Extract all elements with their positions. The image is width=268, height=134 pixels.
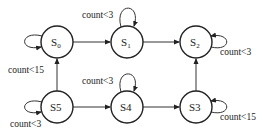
loop-s3 (211, 100, 227, 112)
svg-text:S4: S4 (120, 101, 132, 113)
label-loop-s1: count<3 (82, 10, 113, 20)
state-s5: S5 (41, 91, 73, 123)
state-s1: S1 (111, 26, 143, 58)
label-loop-s3: count<15 (220, 112, 256, 122)
label-loop-s2: count<3 (220, 47, 251, 57)
loop-s5 (25, 101, 42, 113)
loop-s0 (25, 35, 42, 48)
state-s2: S2 (180, 26, 212, 58)
label-loop-s4: count<3 (82, 76, 113, 86)
state-s3: S3 (180, 91, 212, 123)
state-s0: S0 (41, 26, 73, 58)
svg-text:S5: S5 (50, 101, 62, 113)
label-loop-s0: count<15 (8, 65, 44, 75)
loop-s2 (211, 35, 227, 47)
state-s4: S4 (111, 91, 143, 123)
label-loop-s5: count<3 (10, 119, 41, 129)
loop-s1 (120, 8, 136, 27)
svg-text:S3: S3 (189, 101, 201, 113)
state-diagram: S0 S1 S2 S5 S4 S3 count<15 count<3 count… (0, 0, 268, 134)
loop-s4 (120, 74, 136, 92)
